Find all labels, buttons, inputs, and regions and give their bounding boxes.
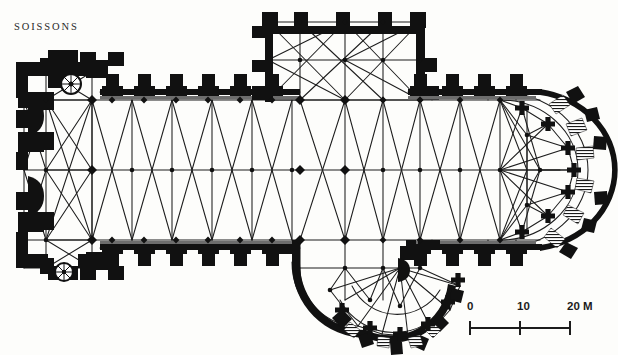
scale-bar: 0 10 20 M (462, 300, 602, 342)
page-title: SOISSONS (14, 21, 79, 32)
scale-tick-label-0: 0 (467, 300, 473, 312)
scale-tick-label-10: 10 (517, 300, 530, 312)
scale-tick-label-20: 20 M (567, 300, 593, 312)
cathedral-plan-figure: SOISSONS (0, 0, 618, 355)
